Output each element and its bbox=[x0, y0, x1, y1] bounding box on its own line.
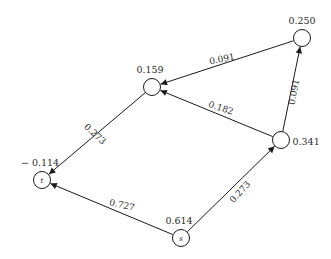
node-value-label: 0.614 bbox=[165, 215, 192, 226]
graph-canvas: ts 0.0910.0910.1820.2730.2730.727 0.2500… bbox=[0, 0, 331, 259]
edge-weight-label: 0.182 bbox=[207, 99, 235, 116]
arrowheads-layer bbox=[49, 47, 302, 189]
edges-layer bbox=[49, 41, 300, 235]
edge-arrowhead bbox=[296, 47, 302, 54]
graph-node[interactable] bbox=[144, 79, 161, 96]
edge-weight-label: 0.727 bbox=[108, 197, 136, 213]
graph-edge bbox=[50, 183, 172, 234]
graph-node[interactable] bbox=[273, 132, 290, 149]
edge-weight-label: 0.091 bbox=[287, 78, 302, 105]
node-value-label: 0.250 bbox=[288, 15, 315, 26]
node-identifier-label: t bbox=[41, 177, 44, 185]
node-value-label: 0.341 bbox=[293, 136, 320, 147]
network-graph-figure: ts 0.0910.0910.1820.2730.2730.727 0.2500… bbox=[0, 0, 331, 259]
edge-labels-layer: 0.0910.0910.1820.2730.2730.727 bbox=[82, 52, 301, 213]
graph-edge bbox=[160, 90, 272, 136]
graph-edge bbox=[187, 146, 274, 231]
node-value-label: 0.159 bbox=[136, 64, 163, 75]
edge-weight-label: 0.273 bbox=[228, 179, 253, 205]
edge-arrowhead bbox=[161, 79, 168, 85]
node-value-label: − 0.114 bbox=[21, 157, 59, 168]
graph-node[interactable] bbox=[294, 30, 311, 47]
node-identifier-label: s bbox=[179, 235, 183, 243]
nodes-layer: ts bbox=[34, 30, 311, 247]
